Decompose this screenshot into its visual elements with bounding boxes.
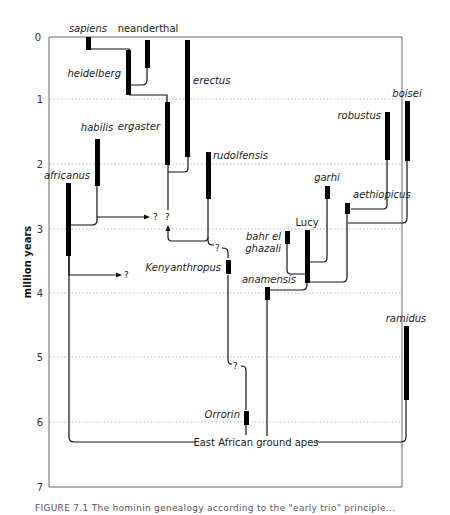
label-ergaster: ergaster — [118, 121, 161, 132]
bar-aethiopicus — [345, 203, 350, 214]
label-africanus: africanus — [44, 170, 90, 181]
question-mark: ? — [215, 243, 220, 253]
bar-rudolfensis — [206, 152, 211, 199]
label-sapiens: sapiens — [69, 23, 107, 34]
tick-6: 6 — [37, 417, 43, 428]
tick-2: 2 — [37, 159, 43, 170]
label-neanderthal: neanderthal — [118, 23, 179, 34]
phylogeny-figure: 0 1 2 3 4 5 6 7 million years — [0, 0, 450, 515]
tick-1: 1 — [37, 94, 43, 105]
label-boisei: boisei — [392, 88, 422, 99]
species-labels: sapiens neanderthal heidelberg erectus e… — [44, 23, 426, 448]
bar-heidelberg — [126, 50, 131, 95]
tick-3: 3 — [37, 224, 43, 235]
bar-garhi — [325, 186, 330, 199]
species-bars — [66, 37, 410, 425]
bar-boisei — [405, 101, 410, 161]
bar-habilis — [95, 139, 100, 186]
label-aethiopicus: aethiopicus — [353, 189, 411, 200]
figure-caption: FIGURE 7.1 The hominin genealogy accordi… — [35, 503, 435, 515]
bar-sapiens — [86, 37, 91, 50]
label-rudolfensis: rudolfensis — [213, 150, 268, 161]
bar-lucy — [305, 230, 310, 283]
label-robustus: robustus — [337, 110, 381, 121]
y-axis-ticks: 0 1 2 3 4 5 6 7 — [35, 32, 43, 493]
bar-kenyanthropus — [226, 260, 231, 274]
question-mark: ? — [153, 212, 158, 222]
bar-robustus — [385, 112, 390, 160]
label-garhi: garhi — [314, 172, 340, 183]
tick-5: 5 — [37, 352, 43, 363]
label-bahr-el-ghazali-2: ghazali — [245, 243, 281, 254]
question-mark: ? — [233, 361, 238, 371]
y-axis-title: million years — [22, 226, 33, 299]
bar-africanus — [66, 183, 71, 256]
bar-erectus — [185, 40, 190, 157]
label-orrorin: Orrorin — [205, 409, 240, 420]
question-mark: ? — [124, 270, 129, 280]
bar-ramidus — [404, 326, 409, 400]
lineage-connectors — [69, 49, 407, 442]
label-lucy: Lucy — [295, 217, 318, 228]
bar-ergaster — [165, 102, 170, 165]
label-kenyanthropus: Kenyanthropus — [146, 262, 221, 273]
label-erectus: erectus — [193, 75, 230, 86]
label-bahr-el-ghazali: bahr el — [246, 231, 281, 242]
bar-bahr-el-ghazali — [285, 231, 290, 244]
bar-orrorin — [244, 411, 249, 425]
tick-4: 4 — [37, 288, 43, 299]
label-habilis: habilis — [81, 122, 113, 133]
label-anamensis: anamensis — [242, 274, 296, 285]
bar-neanderthal — [145, 40, 150, 68]
tick-0: 0 — [35, 32, 41, 43]
bar-anamensis — [265, 287, 270, 300]
label-root: East African ground apes — [193, 437, 318, 448]
question-mark: ? — [165, 212, 170, 222]
label-heidelberg: heidelberg — [67, 68, 121, 79]
label-ramidus: ramidus — [386, 313, 427, 324]
tick-7: 7 — [37, 482, 43, 493]
uncertain-markers: ? ? ? ? ? — [124, 212, 238, 371]
